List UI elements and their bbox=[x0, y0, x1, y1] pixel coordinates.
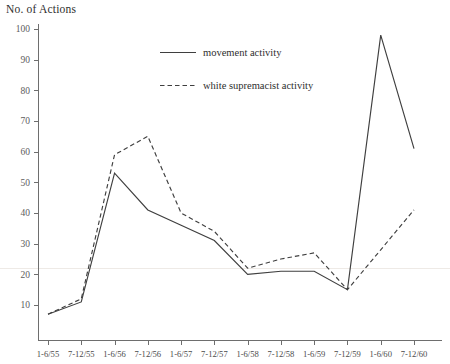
chart-container: No. of Actions 100908070605040302010 1-6… bbox=[0, 0, 450, 364]
series-line-movement-activity bbox=[48, 35, 414, 314]
x-tick-label: 1-6/58 bbox=[236, 349, 258, 359]
y-tick-label: 80 bbox=[21, 86, 31, 96]
x-tick-label: 1-6/60 bbox=[370, 349, 392, 359]
y-tick-label: 90 bbox=[21, 55, 31, 65]
y-tick-label: 50 bbox=[21, 178, 31, 188]
y-tick-label: 20 bbox=[21, 270, 31, 280]
x-tick-label: 7-12/56 bbox=[134, 349, 161, 359]
x-tick-label: 1-6/57 bbox=[170, 349, 193, 359]
x-tick-label: 7-12/57 bbox=[201, 349, 228, 359]
x-tick-label: 1-6/59 bbox=[303, 349, 325, 359]
x-tick-label: 1-6/56 bbox=[103, 349, 126, 359]
y-tick-label: 40 bbox=[21, 208, 31, 218]
legend-label-movement-activity: movement activity bbox=[203, 47, 282, 58]
x-tick-label: 7-12/59 bbox=[334, 349, 361, 359]
y-axis-ticks: 100908070605040302010 bbox=[16, 24, 39, 310]
y-tick-label: 30 bbox=[21, 239, 31, 249]
x-tick-label: 7-12/58 bbox=[268, 349, 295, 359]
x-tick-label: 7-12/55 bbox=[68, 349, 95, 359]
x-tick-label: 1-6/55 bbox=[37, 349, 59, 359]
series-line-white-supremacist-activity bbox=[48, 136, 414, 314]
y-tick-label: 70 bbox=[21, 116, 31, 126]
x-tick-label: 7-12/60 bbox=[401, 349, 428, 359]
x-axis-ticks: 1-6/557-12/551-6/567-12/561-6/577-12/571… bbox=[37, 341, 428, 360]
y-tick-label: 60 bbox=[21, 147, 31, 157]
y-tick-label: 100 bbox=[16, 24, 31, 34]
chart-legend: movement activity white supremacist acti… bbox=[160, 47, 314, 91]
line-chart-plot: 100908070605040302010 1-6/557-12/551-6/5… bbox=[0, 0, 450, 364]
legend-label-white-supremacist-activity: white supremacist activity bbox=[203, 80, 314, 91]
y-tick-label: 10 bbox=[21, 300, 31, 310]
